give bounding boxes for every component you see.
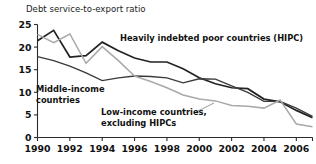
chart-title: Debt service-to-export ratio [26,4,146,14]
annotation-line: Middle-income [36,84,105,94]
debt-service-line-chart: Debt service-to-export ratio 0510152025 … [0,0,316,164]
y-tick-label: 0 [25,132,32,143]
annotation-middle-income: Middle-incomecountries [36,84,105,105]
x-tick-label: 1996 [122,143,149,154]
x-tick-label: 1992 [57,143,83,154]
annotation-line: Low-income countries, [101,107,207,117]
x-tick-label: 2002 [219,143,245,154]
annotation-line: excluding HIPCs [101,118,176,128]
x-axis: 199019921994199619982000200220042006 [24,138,312,155]
annotation-line: Heavily indebted poor countries (HIPC) [120,33,303,43]
series-annotations: Heavily indebted poor countries (HIPC)Mi… [36,33,303,128]
x-tick-label: 2000 [186,143,213,154]
annotation-line: countries [36,95,80,105]
y-tick-label: 15 [18,64,31,75]
y-axis: 0510152025 [18,19,37,143]
annotation-low-income: Low-income countries,excluding HIPCs [101,107,207,128]
chart-container: Debt service-to-export ratio 0510152025 … [0,0,316,164]
y-tick-label: 5 [25,109,32,120]
x-tick-label: 2004 [251,143,278,154]
x-tick-label: 1998 [154,143,180,154]
y-tick-label: 25 [18,19,31,30]
x-tick-label: 1994 [89,143,116,154]
y-tick-label: 20 [18,42,32,53]
y-tick-label: 10 [18,87,32,98]
annotation-hipc: Heavily indebted poor countries (HIPC) [120,33,303,43]
x-tick-label: 1990 [24,143,51,154]
x-tick-label: 2006 [283,143,310,154]
